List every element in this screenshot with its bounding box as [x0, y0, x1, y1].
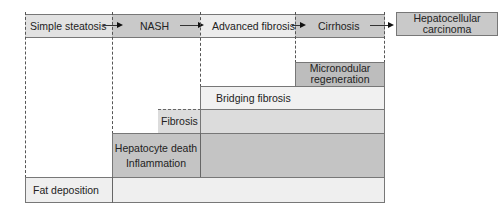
guide-line — [200, 12, 201, 87]
guide-line — [112, 12, 113, 134]
fat-deposition-label: Fat deposition — [33, 184, 99, 196]
bridging-fibrosis-label: Bridging fibrosis — [216, 92, 291, 104]
arrow-icon — [292, 25, 304, 26]
micronodular-line2: regeneration — [296, 74, 384, 85]
hepatocyte-line1: Hepatocyte death — [112, 141, 200, 156]
layer-micronodular-regeneration: Micronodular regeneration — [295, 62, 385, 87]
stage-label-nash: NASH — [140, 20, 169, 32]
layer-fibrosis — [200, 109, 385, 133]
arrow-icon — [370, 25, 392, 26]
hepatocyte-line2: Inflammation — [112, 156, 200, 171]
stage-label-advanced-fibrosis: Advanced fibrosis — [212, 20, 295, 32]
hepatocyte-label: Hepatocyte death Inflammation — [112, 141, 200, 171]
arrow-icon — [180, 25, 202, 26]
stage-label-cirrhosis: Cirrhosis — [318, 20, 359, 32]
divider — [112, 177, 113, 203]
guide-line — [295, 12, 296, 63]
stage-hepatocellular-carcinoma: Hepatocellular carcinoma — [396, 12, 498, 36]
guide-line — [384, 12, 385, 63]
stage-label-simple-steatosis: Simple steatosis — [30, 20, 106, 32]
fibrosis-label: Fibrosis — [161, 115, 198, 127]
guide-line — [25, 12, 26, 178]
hcc-line2: carcinoma — [397, 24, 497, 35]
